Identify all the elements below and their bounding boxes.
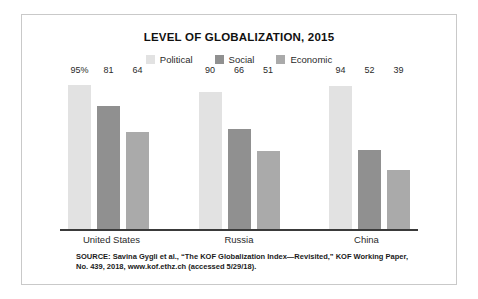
bar-russia-economic: [257, 151, 280, 229]
bar-value-us-social: 81: [103, 65, 113, 75]
bar-china-social: [358, 150, 381, 229]
bar-china-economic: [387, 170, 410, 229]
bar-wrap-china-economic: 39: [387, 77, 410, 229]
chart-legend: Political Social Economic: [22, 54, 456, 65]
bar-wrap-china-social: 52: [358, 77, 381, 229]
bar-value-us-economic: 64: [132, 65, 142, 75]
bar-wrap-russia-economic: 51: [257, 77, 280, 229]
bar-value-china-economic: 39: [393, 65, 403, 75]
legend-swatch-political: [146, 55, 155, 64]
bar-wrap-us-social: 81: [97, 77, 120, 229]
legend-item-social: Social: [215, 54, 255, 65]
x-axis-line: [60, 229, 418, 231]
bar-wrap-russia-political: 90: [199, 77, 222, 229]
category-label-china: China: [323, 234, 410, 245]
bar-value-russia-political: 90: [205, 65, 215, 75]
bar-value-us-political: 95%: [70, 65, 88, 75]
bar-us-social: [97, 106, 120, 229]
bar-wrap-russia-social: 66: [228, 77, 251, 229]
chart-title: LEVEL OF GLOBALIZATION, 2015: [22, 31, 456, 43]
bar-value-china-social: 52: [364, 65, 374, 75]
bar-group-china: 94 52 39: [329, 77, 410, 229]
bar-group-russia: 90 66 51: [199, 77, 280, 229]
category-label-united-states: United States: [68, 234, 155, 245]
bar-value-china-political: 94: [335, 65, 345, 75]
legend-swatch-social: [215, 55, 224, 64]
bar-value-russia-social: 66: [234, 65, 244, 75]
legend-label-social: Social: [229, 54, 255, 65]
bar-value-russia-economic: 51: [263, 65, 273, 75]
category-label-russia: Russia: [196, 234, 283, 245]
bar-us-economic: [126, 132, 149, 229]
bar-wrap-us-political: 95%: [68, 77, 91, 229]
bar-china-political: [329, 86, 352, 229]
bar-groups: 95% 81 64 90 66: [68, 77, 410, 229]
source-note: SOURCE: Savina Gygli et al., “The KOF Gl…: [76, 252, 411, 273]
bar-group-united-states: 95% 81 64: [68, 77, 149, 229]
bar-wrap-us-economic: 64: [126, 77, 149, 229]
bar-wrap-china-political: 94: [329, 77, 352, 229]
legend-swatch-economic: [276, 55, 285, 64]
chart-plot-area: 95% 81 64 90 66: [68, 77, 410, 229]
bar-russia-political: [199, 92, 222, 229]
legend-item-economic: Economic: [276, 54, 332, 65]
bar-us-political: [68, 85, 91, 229]
legend-label-political: Political: [160, 54, 193, 65]
bar-russia-social: [228, 129, 251, 229]
category-axis-labels: United States Russia China: [68, 234, 410, 245]
legend-label-economic: Economic: [290, 54, 332, 65]
chart-figure-frame: LEVEL OF GLOBALIZATION, 2015 Political S…: [21, 14, 457, 285]
legend-item-political: Political: [146, 54, 193, 65]
